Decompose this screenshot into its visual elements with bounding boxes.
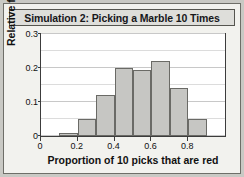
y-axis-tick-mark bbox=[38, 135, 41, 136]
histogram-bar bbox=[59, 133, 77, 136]
y-axis-tick-mark bbox=[38, 67, 41, 68]
y-axis-label: Relative frequency bbox=[5, 0, 19, 46]
x-axis-label: Proportion of 10 picks that are red bbox=[40, 154, 226, 166]
x-axis: Proportion of 10 picks that are red 00.2… bbox=[40, 137, 226, 165]
gridline-major bbox=[41, 33, 225, 34]
x-axis-tick-label: 0 bbox=[37, 141, 42, 151]
histogram-bar bbox=[170, 88, 188, 136]
y-axis-tick-label: 0 bbox=[33, 131, 38, 141]
y-axis-tick-mark bbox=[38, 33, 41, 34]
gridline-major bbox=[41, 67, 225, 68]
histogram-bar bbox=[78, 119, 96, 136]
y-axis-tick-label: 0.1 bbox=[25, 97, 38, 107]
x-axis-tick-label: 0.2 bbox=[71, 141, 84, 151]
x-axis-tick-label: 0.8 bbox=[181, 141, 194, 151]
chart-title-box: Simulation 2: Picking a Marble 10 Times bbox=[9, 9, 235, 26]
histogram-bar bbox=[151, 61, 169, 136]
plot-area: 00.10.20.3 bbox=[40, 33, 226, 137]
histogram-bar bbox=[115, 68, 133, 136]
histogram-bar bbox=[133, 70, 151, 136]
screenshot-frame: Simulation 2: Picking a Marble 10 Times … bbox=[0, 0, 244, 177]
y-axis-tick-label: 0.2 bbox=[25, 63, 38, 73]
gridline-minor bbox=[41, 50, 225, 51]
histogram-chart: Relative frequency 00.10.20.3 Proportion… bbox=[9, 28, 235, 170]
histogram-bar bbox=[188, 119, 206, 136]
chart-title: Simulation 2: Picking a Marble 10 Times bbox=[24, 12, 219, 24]
x-axis-tick-label: 0.6 bbox=[144, 141, 157, 151]
figure-panel: Simulation 2: Picking a Marble 10 Times … bbox=[3, 3, 241, 174]
y-axis-tick-mark bbox=[38, 101, 41, 102]
histogram-bar bbox=[96, 95, 114, 136]
y-axis-tick-label: 0.3 bbox=[25, 29, 38, 39]
x-axis-tick-label: 0.4 bbox=[107, 141, 120, 151]
